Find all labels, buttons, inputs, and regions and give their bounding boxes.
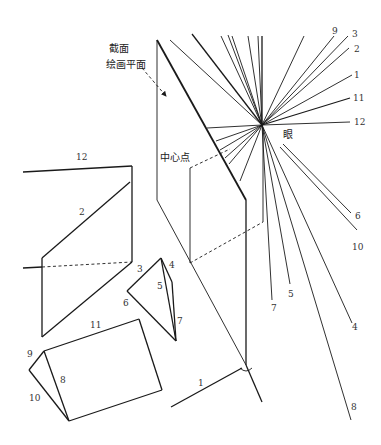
- eye-label: 眼: [283, 129, 293, 140]
- edge-label-5: 5: [157, 281, 163, 291]
- cut-plane-label: 截面: [109, 42, 129, 54]
- edge-label-6: 6: [123, 298, 129, 308]
- ray-label-3: 3: [352, 29, 358, 39]
- ray-label-10: 10: [352, 242, 364, 252]
- edge-label-9: 9: [27, 349, 33, 359]
- picture-plane: [157, 40, 263, 402]
- arrow-icon: [142, 68, 166, 96]
- edge-label-2: 2: [79, 207, 85, 217]
- ray-label-7: 7: [271, 303, 277, 313]
- edge-label-10: 10: [29, 393, 41, 403]
- ray-label-6: 6: [355, 211, 361, 221]
- ray-label-1: 1: [354, 70, 360, 80]
- edge-label-3: 3: [137, 264, 143, 274]
- picture-plane-label: 绘画平面: [106, 58, 146, 70]
- shape-prism: [29, 319, 162, 421]
- edge-label-1: 1: [198, 378, 204, 388]
- perspective-diagram: 截面 绘画平面 中心点 眼 9 3 2 1 11 12 6 10 7 5 4 8…: [0, 0, 381, 445]
- line-1: [171, 368, 242, 407]
- ray-label-12: 12: [354, 117, 365, 127]
- edge-label-11: 11: [90, 320, 101, 330]
- sight-rays: [170, 34, 357, 420]
- edge-label-7: 7: [177, 316, 183, 326]
- ray-label-11: 11: [353, 93, 364, 103]
- edge-label-4: 4: [169, 260, 175, 270]
- center-point-label: 中心点: [160, 151, 190, 163]
- ray-label-9: 9: [332, 26, 338, 36]
- edge-label-12: 12: [76, 152, 87, 162]
- shape-parallelogram: [23, 166, 132, 337]
- ray-label-5: 5: [288, 289, 294, 299]
- ray-label-4: 4: [352, 322, 358, 332]
- edge-label-8: 8: [60, 375, 66, 385]
- ray-label-8: 8: [351, 402, 357, 412]
- shape-wedge: [127, 258, 176, 341]
- ray-label-2: 2: [354, 44, 360, 54]
